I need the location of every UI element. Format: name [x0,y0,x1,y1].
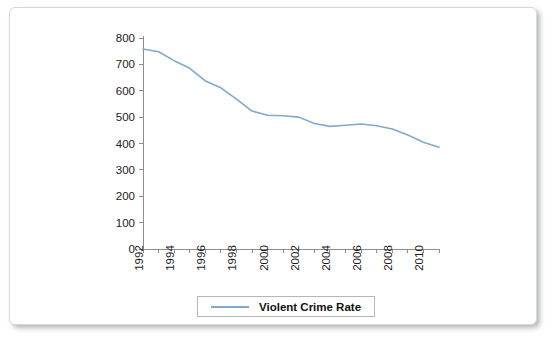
y-tick-label: 100 [116,217,135,229]
x-tick-label: 1996 [195,245,207,271]
x-tick-label: 2010 [413,245,425,271]
x-tick-label: 2002 [289,245,301,271]
y-tick-label: 800 [116,32,135,44]
line-chart-plot: 0100200300400500600700800199219941996199… [10,8,538,326]
legend-label-violent-crime-rate: Violent Crime Rate [259,301,361,313]
x-tick-label: 2000 [258,245,270,271]
chart-legend: Violent Crime Rate [197,296,375,317]
x-tick-label: 1992 [133,245,145,271]
x-tick-label: 2006 [351,245,363,271]
chart-card: 0100200300400500600700800199219941996199… [9,7,537,325]
x-tick-label: 1994 [164,245,176,271]
y-tick-label: 600 [116,85,135,97]
series-line-violent-crime-rate [143,49,439,147]
x-tick-label: 1998 [226,245,238,271]
legend-color-swatch-violent-crime-rate [211,306,249,308]
chart-area: 0100200300400500600700800199219941996199… [10,8,538,326]
y-tick-label: 400 [116,138,135,150]
y-tick-label: 700 [116,58,135,70]
y-tick-label: 200 [116,190,135,202]
y-tick-label: 500 [116,111,135,123]
y-tick-label: 300 [116,164,135,176]
x-tick-label: 2008 [382,245,394,271]
x-tick-label: 2004 [320,245,332,271]
